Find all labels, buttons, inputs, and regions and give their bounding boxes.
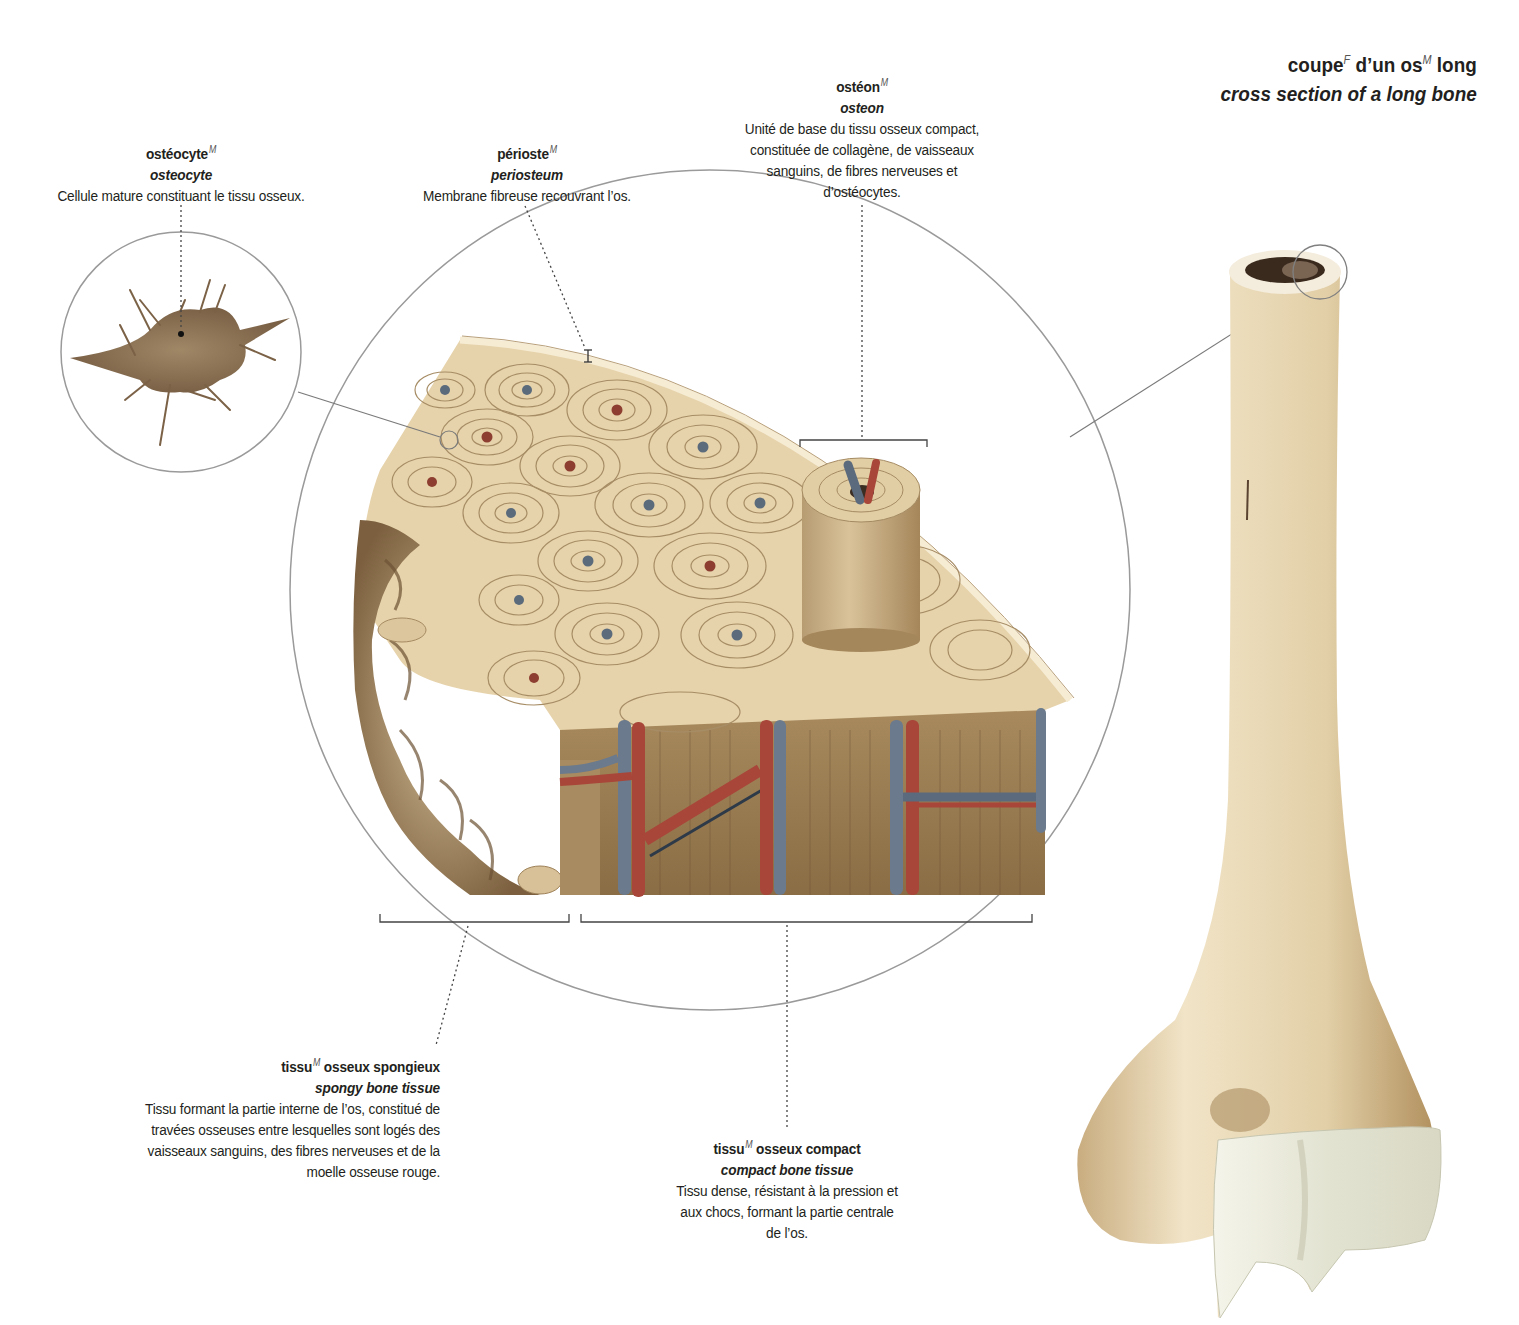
bone-section [353, 336, 1074, 897]
page-title: coupeF d’un osM long cross section of a … [1221, 46, 1477, 108]
label-osteocyte: ostéocyteM osteocyte Cellule mature cons… [22, 139, 341, 206]
title-french: coupeF d’un osM long [1221, 46, 1477, 79]
label-spongy-bone: tissuM osseux spongieux spongy bone tiss… [88, 1052, 440, 1182]
label-periosteum: périosteM periosteum Membrane fibreuse r… [395, 139, 659, 206]
long-bone [1077, 250, 1441, 1318]
label-osteon: ostéonM osteon Unité de base du tissu os… [719, 72, 1004, 202]
label-compact-bone: tissuM osseux compact compact bone tissu… [655, 1134, 919, 1243]
title-english: cross section of a long bone [1221, 79, 1477, 108]
